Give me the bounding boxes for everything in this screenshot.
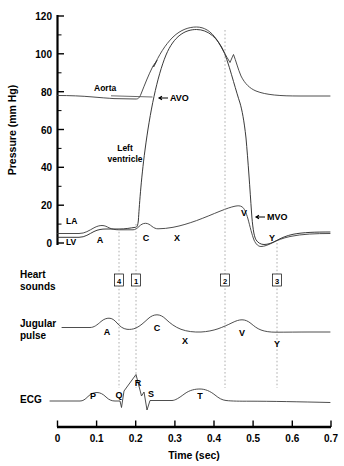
ecg-q-wave-label: Q xyxy=(115,390,122,400)
ytick-40: 40 xyxy=(41,162,53,173)
ytick-100: 100 xyxy=(35,49,52,60)
lv-abbrev-label: LV xyxy=(66,237,77,247)
ytick-120: 120 xyxy=(35,11,52,22)
pressure-y-axis: 120 100 80 60 40 20 0 Pressure (mm Hg) xyxy=(6,11,64,249)
heart-sound-marker-1[interactable]: 1 xyxy=(132,274,141,286)
cardiac-cycle-figure: 120 100 80 60 40 20 0 Pressure (mm Hg) A… xyxy=(0,0,344,466)
jugular-c-wave-label: C xyxy=(154,323,161,333)
pressure-x-descent-label: X xyxy=(174,233,180,243)
jugular-label-line2: pulse xyxy=(20,330,47,341)
ytick-80: 80 xyxy=(41,87,53,98)
aorta-leader-line xyxy=(111,96,153,97)
xtick-0-7: 0.7 xyxy=(324,433,338,444)
heart-sound-marker-2[interactable]: 2 xyxy=(221,274,230,286)
heart-sound-number-3: 3 xyxy=(275,277,279,286)
ecg-t-wave-label: T xyxy=(197,391,203,401)
heart-sound-number-1: 1 xyxy=(134,277,138,286)
jugular-x-descent-label: X xyxy=(182,336,188,346)
jugular-a-wave-label: A xyxy=(104,327,111,337)
jugular-label-line1: Jugular xyxy=(20,318,56,329)
ytick-60: 60 xyxy=(41,125,53,136)
jugular-pulse-panel: Jugular pulse A C X V Y xyxy=(20,315,330,349)
pressure-a-wave-label: A xyxy=(97,235,104,245)
event-marker-lines xyxy=(119,30,277,388)
avo-label: AVO xyxy=(170,93,189,103)
heart-sound-marker-4[interactable]: 4 xyxy=(115,274,124,286)
xtick-0: 0 xyxy=(55,433,61,444)
ytick-20: 20 xyxy=(41,200,53,211)
heart-sound-marker-3[interactable]: 3 xyxy=(273,274,282,286)
ecg-s-wave-label: S xyxy=(148,389,154,399)
pressure-v-wave-label: V xyxy=(241,208,247,218)
figure-canvas: 120 100 80 60 40 20 0 Pressure (mm Hg) A… xyxy=(0,0,344,466)
jugular-pulse-trace xyxy=(62,315,330,332)
heart-sounds-panel: Heart sounds 4 1 2 3 xyxy=(20,269,282,292)
mvo-annotation: MVO xyxy=(256,212,288,222)
mvo-label: MVO xyxy=(267,212,288,222)
xtick-0-2: 0.2 xyxy=(129,433,143,444)
pressure-axis-title: Pressure (mm Hg) xyxy=(6,85,18,175)
ecg-label: ECG xyxy=(20,394,42,405)
xtick-0-1: 0.1 xyxy=(90,433,104,444)
pressure-c-wave-label: C xyxy=(143,233,150,243)
pressure-y-descent-label: Y xyxy=(269,233,275,243)
left-ventricle-label-line2: ventricle xyxy=(108,154,143,164)
xtick-0-6: 0.6 xyxy=(285,433,299,444)
xtick-0-4: 0.4 xyxy=(207,433,221,444)
mvo-arrow-icon xyxy=(256,215,265,218)
ecg-panel: ECG P Q R S T xyxy=(20,375,330,411)
aorta-label: Aorta xyxy=(94,83,116,93)
ecg-r-wave-label: R xyxy=(135,378,142,388)
left-ventricle-label-line1: Left xyxy=(117,143,133,153)
jugular-y-descent-label: Y xyxy=(274,339,280,349)
avo-annotation: AVO xyxy=(159,93,189,103)
avo-arrow-icon xyxy=(159,96,168,99)
pressure-traces: Aorta Left ventricle LA LV AVO MVO A C X… xyxy=(58,27,331,247)
time-axis: 0 0.1 0.2 0.3 0.4 0.5 0.6 0.7 Time (sec) xyxy=(55,421,339,462)
xtick-0-5: 0.5 xyxy=(246,433,260,444)
ecg-p-wave-label: P xyxy=(90,391,96,401)
heart-sound-number-2: 2 xyxy=(223,277,227,286)
jugular-v-wave-label: V xyxy=(239,328,245,338)
time-axis-title: Time (sec) xyxy=(168,449,220,461)
heart-sounds-label-line2: sounds xyxy=(20,281,56,292)
heart-sounds-label-line1: Heart xyxy=(20,269,46,280)
xtick-0-3: 0.3 xyxy=(168,433,182,444)
left-ventricle-trace xyxy=(58,30,331,245)
ytick-0: 0 xyxy=(46,238,52,249)
la-abbrev-label: LA xyxy=(66,216,77,226)
